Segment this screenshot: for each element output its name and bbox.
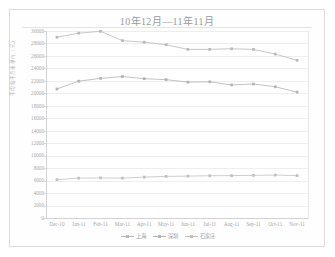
data-point-marker [165, 43, 168, 46]
y-axis-tick-label: 16000 [2, 115, 44, 121]
data-point-marker [165, 175, 168, 178]
legend-item[interactable]: 上海 [121, 232, 146, 240]
data-point-marker [187, 48, 190, 51]
data-point-marker [274, 85, 277, 88]
y-axis-title: 平均每平方米单价（元） [9, 38, 15, 96]
chart-legend: 上海深圳石家庄 [0, 232, 335, 240]
x-axis-tick-label: Oct-11 [268, 221, 282, 227]
plot-right-edge [308, 31, 309, 219]
x-axis-tick-label: Jan-11 [72, 221, 86, 227]
data-point-marker [208, 174, 211, 177]
y-axis-tick-label: 10000 [2, 152, 44, 158]
data-point-marker [230, 47, 233, 50]
data-point-marker [187, 81, 190, 84]
series-line [57, 31, 297, 60]
legend-label: 上海 [136, 232, 146, 240]
legend-key-icon [121, 234, 134, 239]
y-axis-tick-label: 8000 [2, 165, 44, 171]
data-point-marker [143, 41, 146, 44]
y-axis-tick-label: 6000 [2, 177, 44, 183]
data-point-marker [121, 177, 124, 180]
series-line [57, 77, 297, 93]
data-point-marker [296, 91, 299, 94]
y-axis-tick-label: 0 [2, 215, 44, 221]
data-point-marker [296, 174, 299, 177]
series-line [57, 175, 297, 180]
x-axis-tick-label: Dec-10 [49, 221, 64, 227]
legend-item[interactable]: 深圳 [153, 232, 178, 240]
data-point-marker [208, 48, 211, 51]
y-axis-tick-label: 18000 [2, 103, 44, 109]
title-divider [22, 27, 312, 28]
legend-label: 深圳 [168, 232, 178, 240]
x-axis-tick-label: Sep-11 [246, 221, 261, 227]
data-point-marker [99, 30, 102, 33]
series-plot [46, 31, 308, 218]
data-point-marker [252, 174, 255, 177]
series-深圳 [56, 75, 299, 93]
data-point-marker [56, 178, 59, 181]
y-axis-tick-label: 14000 [2, 128, 44, 134]
series-上海 [56, 30, 299, 62]
x-axis-tick-label: Apr-11 [137, 221, 152, 227]
x-axis-tick-label: Mar-11 [115, 221, 130, 227]
data-point-marker [77, 80, 80, 83]
data-point-marker [121, 75, 124, 78]
data-point-marker [99, 77, 102, 80]
x-axis-tick-label: Feb-11 [93, 221, 108, 227]
data-point-marker [230, 84, 233, 87]
x-axis-tick-label: Jun-11 [181, 221, 195, 227]
x-axis-tick-label: Aug-11 [224, 221, 240, 227]
chart-title: 10年12月—11年11月 [22, 13, 312, 28]
x-axis-tick-label: Nov-11 [289, 221, 305, 227]
data-point-marker [56, 88, 59, 91]
legend-label: 石家庄 [200, 232, 215, 240]
y-axis-tick-label: 4000 [2, 190, 44, 196]
data-point-marker [230, 174, 233, 177]
y-axis-tick-label: 12000 [2, 140, 44, 146]
data-point-marker [208, 80, 211, 83]
legend-item[interactable]: 石家庄 [185, 232, 215, 240]
x-axis-line [46, 218, 309, 219]
legend-key-icon [185, 234, 198, 239]
y-axis-tick-label: 30000 [2, 28, 44, 34]
y-axis-tick-mark [43, 218, 46, 219]
data-point-marker [296, 59, 299, 62]
y-axis-tick-label: 2000 [2, 202, 44, 208]
series-石家庄 [56, 174, 299, 181]
data-point-marker [99, 177, 102, 180]
chart-page: 10年12月—11年11月 02000400060008000100001200… [0, 0, 335, 257]
data-point-marker [143, 176, 146, 179]
data-point-marker [187, 175, 190, 178]
data-point-marker [121, 39, 124, 42]
data-point-marker [274, 174, 277, 177]
data-point-marker [56, 36, 59, 39]
x-axis-tick-label: Jul-11 [203, 221, 216, 227]
data-point-marker [274, 53, 277, 56]
data-point-marker [165, 78, 168, 81]
data-point-marker [77, 177, 80, 180]
data-point-marker [77, 32, 80, 35]
data-point-marker [252, 48, 255, 51]
x-axis-tick-label: May-11 [158, 221, 174, 227]
legend-key-icon [153, 234, 166, 239]
data-point-marker [252, 83, 255, 86]
data-point-marker [143, 77, 146, 80]
